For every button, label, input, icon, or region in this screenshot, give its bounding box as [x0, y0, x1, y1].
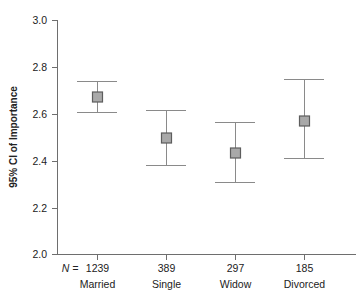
confidence-interval-chart: 3.0 2.8 2.6 2.4 2.2 2.0 95% CI of Import… [0, 0, 362, 300]
data-point-marker [231, 148, 241, 158]
n-value-married: 1239 [86, 262, 110, 274]
y-tick-label-2-6: 2.6 [32, 108, 47, 120]
n-header-label: N = [62, 262, 79, 274]
y-axis-title: 95% CI of Importance [8, 86, 19, 188]
chart-canvas: 3.0 2.8 2.6 2.4 2.2 2.0 95% CI of Import… [0, 0, 362, 300]
n-value-widow: 297 [227, 262, 245, 274]
x-category-label-widow: Widow [220, 278, 252, 290]
error-bar-married [77, 81, 117, 113]
y-tick-label-2-0: 2.0 [32, 248, 47, 260]
error-bar-divorced [284, 79, 324, 159]
y-tick-label-3-0: 3.0 [32, 14, 47, 26]
data-point-marker [300, 116, 310, 126]
n-value-single: 389 [158, 262, 176, 274]
error-bar-single [146, 110, 186, 166]
y-tick-label-2-2: 2.2 [32, 202, 47, 214]
y-tick-label-2-8: 2.8 [32, 61, 47, 73]
error-bar-widow [215, 122, 255, 183]
data-point-marker [162, 133, 172, 143]
x-category-label-married: Married [80, 278, 116, 290]
n-value-divorced: 185 [296, 262, 314, 274]
y-tick-label-2-4: 2.4 [32, 155, 47, 167]
x-category-label-single: Single [152, 278, 181, 290]
y-axis-ticks [52, 21, 57, 255]
data-point-marker [93, 92, 103, 102]
x-category-label-divorced: Divorced [284, 278, 326, 290]
